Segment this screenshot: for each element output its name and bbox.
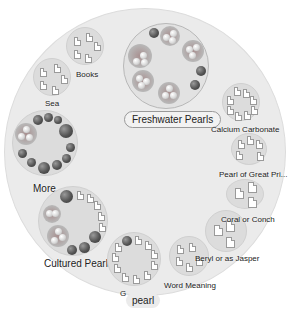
- document-icon: [247, 136, 254, 145]
- document-icon: [133, 275, 140, 284]
- document-icon: [186, 263, 193, 272]
- node-freshwater-pearls[interactable]: [123, 23, 209, 109]
- document-icon: [94, 201, 101, 210]
- document-icon: [151, 250, 158, 259]
- document-icon: [176, 257, 183, 266]
- node-calcium-carbonate[interactable]: [222, 83, 260, 121]
- document-icon: [54, 64, 61, 73]
- document-icon: [144, 271, 151, 280]
- pearl-icon: [54, 116, 62, 124]
- document-icon: [243, 89, 250, 98]
- document-icon: [248, 182, 257, 193]
- document-icon: [238, 140, 245, 149]
- node-label-pearl-of-great-price[interactable]: Pearl of Great Pri...: [219, 170, 287, 179]
- document-icon: [86, 33, 93, 42]
- document-icon: [74, 37, 81, 46]
- pearl-cluster-icon: [43, 205, 61, 223]
- document-icon: [61, 75, 68, 84]
- document-icon: [85, 54, 92, 63]
- pearl-icon: [44, 113, 53, 122]
- pearl-icon: [27, 158, 36, 167]
- document-icon: [226, 237, 235, 248]
- document-icon: [112, 253, 119, 262]
- document-icon: [177, 245, 184, 254]
- partial-label: G: [120, 289, 126, 298]
- document-icon: [74, 50, 81, 59]
- document-icon: [256, 140, 263, 149]
- pearl-icon: [122, 236, 132, 246]
- node-label-word-meaning[interactable]: Word Meaning: [164, 281, 216, 290]
- document-icon: [151, 261, 158, 270]
- pearl-icon: [52, 160, 62, 170]
- pearl-icon: [62, 154, 71, 163]
- document-icon: [257, 152, 264, 161]
- document-icon: [234, 87, 241, 96]
- document-icon: [98, 212, 105, 221]
- pearl-icon: [66, 143, 75, 152]
- node-cultured-pearls[interactable]: [38, 186, 108, 256]
- document-icon: [99, 223, 106, 232]
- node-pearl-of-great-price[interactable]: [226, 179, 264, 209]
- document-icon: [189, 243, 196, 252]
- pearl-icon: [59, 124, 73, 138]
- pearl-icon: [67, 245, 77, 255]
- document-icon: [244, 111, 251, 120]
- pearl-icon: [196, 66, 206, 76]
- node-pearl-center[interactable]: [107, 232, 161, 286]
- pearl-cluster-icon: [128, 44, 152, 68]
- pearl-icon: [89, 231, 101, 243]
- document-icon: [135, 236, 142, 245]
- document-icon: [52, 86, 59, 95]
- document-icon: [251, 106, 258, 115]
- document-icon: [214, 225, 223, 236]
- node-documents[interactable]: [231, 133, 267, 165]
- document-icon: [235, 188, 244, 199]
- node-books[interactable]: [66, 27, 104, 65]
- document-icon: [77, 191, 84, 200]
- node-label-books[interactable]: Books: [76, 70, 98, 79]
- document-icon: [94, 42, 101, 51]
- pearl-icon: [149, 28, 159, 38]
- document-icon: [122, 273, 129, 282]
- pearl-icon: [79, 242, 90, 253]
- center-node-label[interactable]: pearl: [126, 293, 160, 308]
- pearl-cluster-icon: [132, 70, 154, 92]
- pearl-icon: [190, 80, 200, 90]
- node-documents[interactable]: [33, 58, 71, 96]
- pearl-icon: [33, 115, 43, 125]
- pearl-icon: [18, 149, 27, 158]
- node-label-beryl-or-as-jasper[interactable]: Beryl or as Jasper: [195, 254, 259, 263]
- document-icon: [227, 96, 234, 105]
- document-icon: [40, 68, 47, 77]
- node-sea[interactable]: [12, 110, 78, 176]
- document-icon: [87, 194, 94, 203]
- pearl-cluster-icon: [158, 82, 180, 104]
- document-icon: [248, 197, 257, 208]
- document-icon: [145, 241, 152, 250]
- document-icon: [40, 81, 47, 90]
- document-icon: [227, 106, 234, 115]
- node-label-freshwater-pearls[interactable]: Freshwater Pearls: [124, 111, 221, 128]
- document-icon: [115, 243, 122, 252]
- document-icon: [114, 264, 121, 273]
- pearl-cluster-icon: [15, 123, 37, 145]
- pearl-icon: [60, 190, 73, 203]
- document-icon: [250, 96, 257, 105]
- node-label-cultured-pearls[interactable]: Cultured Pearls: [44, 258, 113, 269]
- pearl-cluster-icon: [160, 26, 180, 46]
- pearl-cluster-icon: [47, 225, 69, 247]
- pearl-cluster-icon: [182, 40, 204, 62]
- document-icon: [235, 112, 242, 121]
- node-label-coral-or-conch[interactable]: Coral or Conch: [221, 215, 275, 224]
- node-label-sea[interactable]: Sea: [45, 99, 59, 108]
- pearl-icon: [38, 162, 50, 174]
- document-icon: [236, 151, 243, 160]
